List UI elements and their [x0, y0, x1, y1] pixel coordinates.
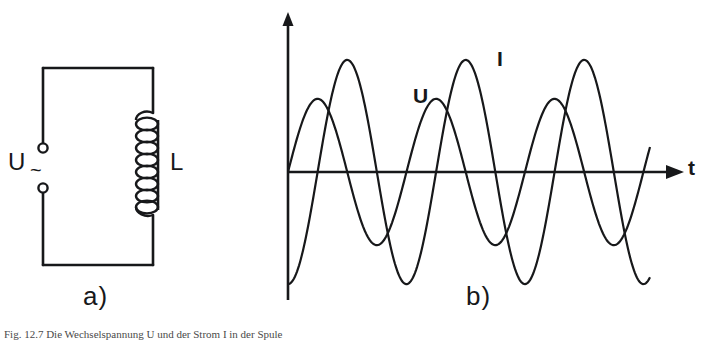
x-axis-label: t [688, 157, 696, 178]
figure-container: U ~ L a) U I t b) Fig. 12.7 Die Wechsels… [0, 0, 708, 342]
curve-label-I: I [497, 48, 503, 69]
x-axis-arrowhead [666, 165, 684, 179]
panel-b-label: b) [466, 283, 491, 309]
figure-caption: Fig. 12.7 Die Wechselspannung U und der … [4, 328, 704, 342]
curve-label-U: U [413, 85, 429, 106]
waveform-chart-panel-b [0, 0, 708, 300]
y-axis-arrowhead [283, 12, 294, 26]
